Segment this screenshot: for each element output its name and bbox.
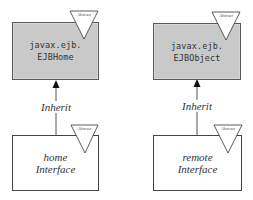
badge-layer: Abstract Abstract Abstract Abstract — [0, 0, 253, 200]
svg-text:Abstract: Abstract — [218, 13, 233, 18]
abstract-badge-icon: Abstract — [71, 125, 98, 153]
abstract-badge-icon: Abstract — [214, 125, 242, 153]
inheritance-diagram: javax.ejb. EJBHome Inherit home Interfac… — [0, 0, 253, 200]
svg-text:Abstract: Abstract — [76, 12, 91, 17]
svg-text:Abstract: Abstract — [77, 126, 92, 131]
svg-text:Abstract: Abstract — [220, 126, 235, 131]
abstract-badge-icon: Abstract — [70, 11, 98, 39]
abstract-badge-icon: Abstract — [212, 12, 240, 40]
